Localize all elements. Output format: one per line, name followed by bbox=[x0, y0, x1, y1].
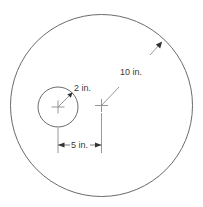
offset-arrowhead-right bbox=[95, 143, 102, 148]
inner-radius-dimension bbox=[58, 92, 73, 107]
outer-radius-label: 10 in. bbox=[120, 67, 142, 77]
inner-radius-label: 2 in. bbox=[74, 83, 91, 93]
offset-arrowhead-left bbox=[58, 143, 65, 148]
diagram-canvas: 2 in. 10 in. 5 in. bbox=[0, 0, 203, 207]
center-offset-label: 5 in. bbox=[71, 140, 88, 150]
geometry-diagram: 2 in. 10 in. 5 in. bbox=[0, 0, 203, 207]
